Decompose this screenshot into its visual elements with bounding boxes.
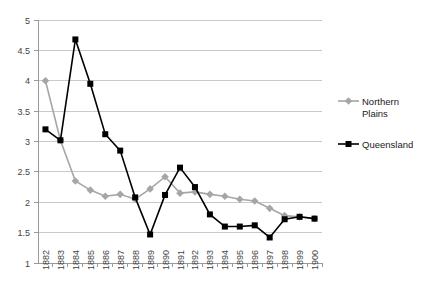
legend-label: Northern — [362, 96, 399, 107]
y-axis-tick-label: 4 — [25, 76, 30, 86]
data-point-marker — [252, 222, 258, 228]
data-point-marker — [282, 216, 288, 222]
x-axis-tick-label: 1886 — [101, 250, 111, 270]
data-point-marker — [72, 177, 80, 185]
legend-item-northern-plains[interactable]: NorthernPlains — [338, 96, 399, 120]
data-point-marker — [72, 36, 78, 42]
y-axis-tick-label: 1 — [25, 259, 30, 269]
x-axis-tick-label: 1888 — [131, 250, 141, 270]
data-point-marker — [116, 191, 124, 199]
data-point-marker — [42, 77, 50, 85]
x-axis-tick-label: 1884 — [71, 250, 81, 270]
data-point-marker — [221, 192, 229, 200]
x-axis-tick-label: 1897 — [265, 250, 275, 270]
x-axis-tick-label: 1885 — [86, 250, 96, 270]
x-axis-tick-label: 1889 — [146, 250, 156, 270]
series-northern-plains — [42, 77, 319, 223]
x-axis-tick-label: 1896 — [250, 250, 260, 270]
x-axis-tick-label: 1895 — [235, 250, 245, 270]
chart-svg: 11.522.533.544.5518821883188418851886188… — [0, 0, 429, 307]
data-point-marker — [177, 165, 183, 171]
x-axis-tick-label: 1892 — [190, 250, 200, 270]
data-point-marker — [102, 131, 108, 137]
data-point-marker — [57, 137, 63, 143]
legend-item-queensland[interactable]: Queensland — [338, 139, 413, 150]
data-point-marker — [192, 184, 198, 190]
data-point-marker — [207, 211, 213, 217]
data-point-marker — [42, 126, 48, 132]
data-point-marker — [132, 194, 138, 200]
x-axis-tick-label: 1891 — [176, 250, 186, 270]
data-point-marker — [162, 192, 168, 198]
legend-marker — [345, 97, 353, 105]
series-line — [45, 81, 314, 219]
data-point-marker — [297, 214, 303, 220]
data-point-marker — [101, 192, 109, 200]
line-chart: 11.522.533.544.5518821883188418851886188… — [0, 0, 429, 307]
chart-page: 11.522.533.544.5518821883188418851886188… — [0, 0, 429, 307]
x-axis-tick-label: 1893 — [205, 250, 215, 270]
series-queensland — [42, 36, 317, 240]
legend-label: Queensland — [362, 139, 413, 150]
x-axis-tick-label: 1883 — [56, 250, 66, 270]
y-axis-tick-label: 2 — [25, 198, 30, 208]
x-axis-tick-label: 1882 — [41, 250, 51, 270]
data-point-marker — [147, 231, 153, 237]
x-axis-tick-label: 1894 — [220, 250, 230, 270]
y-axis-tick-label: 3 — [25, 137, 30, 147]
y-axis-tick-label: 2.5 — [17, 167, 30, 177]
data-point-marker — [87, 81, 93, 87]
x-axis-tick-label: 1898 — [280, 250, 290, 270]
data-point-marker — [266, 205, 274, 213]
legend-label-line2: Plains — [362, 108, 388, 119]
y-axis-tick-label: 4.5 — [17, 46, 30, 56]
y-axis-tick-label: 3.5 — [17, 107, 30, 117]
legend-marker — [346, 141, 352, 147]
data-point-marker — [87, 186, 95, 194]
data-point-marker — [251, 197, 259, 205]
x-axis-tick-label: 1890 — [161, 250, 171, 270]
y-axis-tick-label: 5 — [25, 16, 30, 26]
y-axis-tick-label: 1.5 — [17, 228, 30, 238]
x-axis-tick-label: 1900 — [310, 250, 320, 270]
data-point-marker — [267, 234, 273, 240]
series-line — [45, 39, 314, 237]
data-point-marker — [237, 224, 243, 230]
x-axis-tick-label: 1887 — [116, 250, 126, 270]
data-point-marker — [222, 224, 228, 230]
x-axis-tick-label: 1899 — [295, 250, 305, 270]
data-point-marker — [117, 148, 123, 154]
data-point-marker — [312, 216, 318, 222]
data-point-marker — [206, 191, 214, 199]
